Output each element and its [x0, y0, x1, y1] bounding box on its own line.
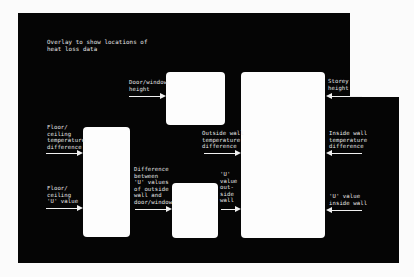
arrow-right-icon	[129, 93, 166, 100]
arrow-right-icon	[204, 150, 241, 157]
floor-ceiling-temp-diff-label: Floor/ ceiling temperature difference	[47, 124, 85, 150]
floor-ceiling-cutout	[83, 127, 130, 237]
storey-height-label: Storey height	[328, 78, 349, 91]
wall-cutout	[241, 72, 325, 238]
arrow-right-icon	[221, 206, 241, 213]
door-window-difference-cutout	[172, 183, 218, 238]
arrow-right-icon	[46, 150, 83, 157]
arrow-left-icon	[326, 93, 362, 100]
u-value-outside-wall-label: 'U' value out- side wall	[220, 171, 237, 204]
inside-wall-temp-diff-label: Inside wall temperature difference	[329, 130, 367, 150]
door-window-cutout	[166, 72, 225, 125]
arrow-right-icon	[135, 206, 172, 213]
diff-u-values-label: Difference between 'U' values of outside…	[134, 166, 172, 206]
overlay-title: Overlay to show locations of heat loss d…	[47, 39, 148, 52]
arrow-right-icon	[46, 205, 83, 212]
u-value-inside-wall-label: 'U' value inside wall	[329, 193, 367, 206]
arrow-left-icon	[326, 207, 362, 214]
floor-ceiling-u-value-label: Floor/ ceiling 'U' value	[47, 185, 78, 205]
overlay-panel-right-step	[349, 97, 399, 263]
door-window-height-label: Door/window height	[129, 79, 167, 92]
arrow-left-icon	[326, 150, 362, 157]
outside-wall-temp-diff-label: Outside wall temperature difference	[202, 130, 244, 150]
